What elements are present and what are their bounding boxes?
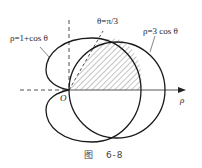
circle-label: ρ=3 cos θ <box>143 26 178 36</box>
caption-number: 6-8 <box>106 150 124 160</box>
axis-arrow-icon <box>178 87 186 93</box>
cardioid-label: ρ=1+cos θ <box>10 33 48 43</box>
shaded-region <box>69 38 142 90</box>
origin-label: O <box>60 93 67 103</box>
figure-caption: 图 6-8 <box>84 148 124 161</box>
cardioid-leader <box>40 47 50 58</box>
caption-prefix: 图 <box>84 150 94 160</box>
axis-label: ρ <box>180 95 184 105</box>
circle-leader <box>150 36 155 52</box>
ray-label: θ=π/3 <box>97 16 118 26</box>
